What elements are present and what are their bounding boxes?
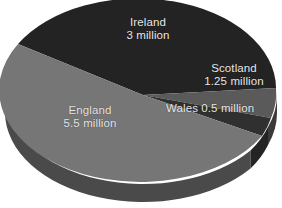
pie-chart-graphic	[0, 0, 282, 208]
pie-top-face	[0, 0, 276, 182]
pie-chart: Ireland 3 million Scotland 1.25 million …	[0, 0, 282, 208]
